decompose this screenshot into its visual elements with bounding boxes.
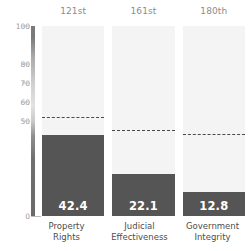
bar-column-judicial-effectiveness: 22.1: [108, 22, 178, 218]
category-label-row: Property Rights Judicial Effectiveness G…: [30, 220, 249, 251]
bar-column-property-rights: 42.4: [38, 22, 108, 218]
rank-label-government-integrity: 180th: [179, 0, 249, 22]
category-label-line-2: Rights: [30, 232, 103, 243]
bar-column-government-integrity: 12.8: [179, 22, 249, 218]
category-label-line-1: Judicial: [103, 221, 176, 232]
bar-property-rights: 42.4: [42, 135, 104, 216]
y-axis-tick-mark-70: [22, 83, 29, 84]
bar-judicial-effectiveness: 22.1: [112, 174, 174, 216]
category-label-line-1: Government: [176, 221, 249, 232]
bar-government-integrity: 12.8: [183, 192, 245, 216]
y-axis-tick-mark-60: [22, 102, 29, 103]
y-axis-tick-label-0: 0: [8, 212, 30, 221]
reference-line-judicial-effectiveness: [112, 130, 174, 131]
bar-value-government-integrity: 12.8: [183, 199, 245, 213]
column-panel: [183, 26, 245, 216]
rank-label-judicial-effectiveness: 161st: [108, 0, 178, 22]
category-label-line-1: Property: [30, 221, 103, 232]
bar-columns: 42.4 22.1 12.8: [38, 22, 249, 218]
y-axis-tick-mark-100: [22, 26, 29, 27]
bar-value-judicial-effectiveness: 22.1: [112, 199, 174, 213]
y-axis-bar: [31, 26, 35, 216]
y-axis-tick-mark-80: [22, 64, 29, 65]
plot-area: 100 80 70 60 50 0 42.4 22.1: [0, 22, 249, 218]
bar-chart: 121st 161st 180th 100 80 70 60 50 0 42.4: [0, 0, 249, 251]
rank-label-property-rights: 121st: [38, 0, 108, 22]
reference-line-government-integrity: [183, 134, 245, 135]
category-label-judicial-effectiveness: Judicial Effectiveness: [103, 220, 176, 251]
category-label-property-rights: Property Rights: [30, 220, 103, 251]
category-label-line-2: Effectiveness: [103, 232, 176, 243]
y-axis-tick-mark-50: [22, 121, 29, 122]
rank-header-row: 121st 161st 180th: [38, 0, 249, 22]
category-label-line-2: Integrity: [176, 232, 249, 243]
category-label-government-integrity: Government Integrity: [176, 220, 249, 251]
reference-line-property-rights: [42, 117, 104, 118]
bar-value-property-rights: 42.4: [42, 199, 104, 213]
